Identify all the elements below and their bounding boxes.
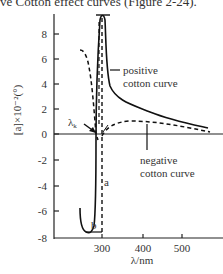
- svg-text:-4: -4: [38, 180, 48, 192]
- x-axis: [54, 234, 223, 238]
- positive-label-2: cotton curve: [123, 77, 178, 89]
- svg-text:-6: -6: [38, 205, 48, 217]
- y-axis-label: [a]×10⁻²(°): [11, 84, 24, 135]
- x-axis-label: λ/nm: [131, 254, 154, 266]
- positive-label-1: positive: [123, 64, 158, 76]
- cotton-effect-chart: 8 6 4 2 0 -2 -4 -6 -8 300 400 500 λ/nm […: [0, 0, 223, 274]
- x-tick-labels: 300 400 500: [94, 242, 191, 254]
- negative-label-1: negative: [140, 154, 177, 166]
- svg-text:8: 8: [42, 28, 48, 40]
- svg-text:2: 2: [42, 103, 48, 115]
- svg-text:4: 4: [42, 78, 48, 90]
- y-tick-labels: 8 6 4 2 0 -2 -4 -6 -8: [38, 28, 48, 244]
- lambda-k-label: λk: [68, 116, 77, 130]
- svg-text:500: 500: [174, 242, 191, 254]
- svg-text:-8: -8: [38, 232, 48, 244]
- svg-text:400: 400: [135, 242, 152, 254]
- width-b-label: b: [91, 219, 97, 231]
- svg-text:0: 0: [42, 128, 48, 140]
- svg-text:-2: -2: [38, 154, 47, 166]
- svg-text:300: 300: [94, 242, 111, 254]
- positive-cotton-curve: [80, 16, 208, 233]
- amplitude-a-label: a: [104, 176, 109, 188]
- svg-text:6: 6: [42, 53, 48, 65]
- y-axis: [54, 14, 59, 239]
- negative-label-2: cotton curve: [140, 167, 195, 179]
